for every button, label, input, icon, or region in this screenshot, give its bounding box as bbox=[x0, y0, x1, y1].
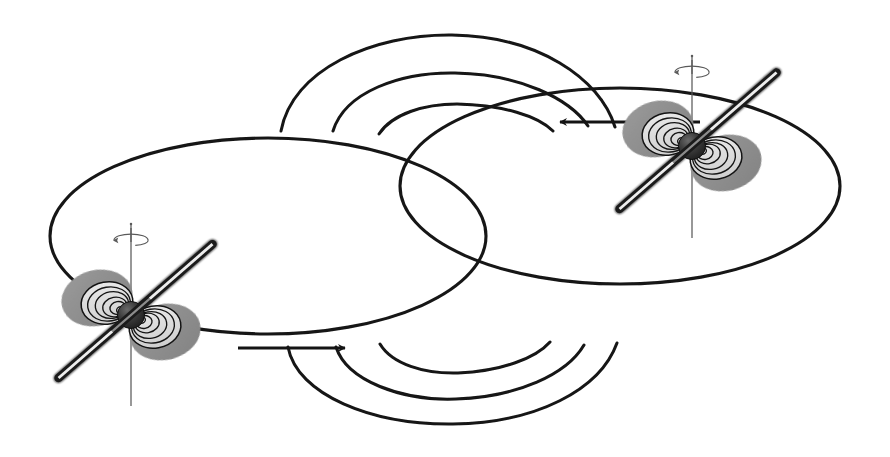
binary-pulsar-diagram bbox=[0, 0, 890, 457]
diagram-canvas bbox=[0, 0, 890, 457]
diagram-background bbox=[0, 0, 890, 457]
